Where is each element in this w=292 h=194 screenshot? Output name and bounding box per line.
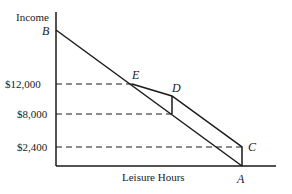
point-label-B: B [42,25,49,37]
y-tick-2400: $2,400 [17,142,47,153]
y-tick-12000: $12,000 [5,79,41,90]
point-label-C: C [248,141,256,153]
point-label-D: D [172,82,181,94]
point-label-E: E [132,69,139,81]
y-axis-label: Income [16,12,49,23]
x-axis-label: Leisure Hours [122,172,185,183]
budget-line-BA [56,30,242,166]
point-label-A: A [237,173,244,185]
y-tick-8000: $8,000 [17,109,47,120]
